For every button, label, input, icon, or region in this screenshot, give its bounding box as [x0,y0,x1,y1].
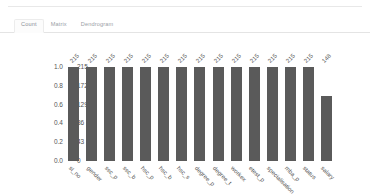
missing-values-panel: CountMatrixDendrogram 1.00.80.60.40.20.0… [0,0,370,194]
plot-area: 1.00.80.60.40.20.0 21517212986430 215sl_… [68,67,332,161]
bar-column: 215specialisation [267,67,278,161]
bar-column: 215ssc_p [104,67,115,161]
bar-value-label: 215 [86,53,97,64]
x-axis-tick-label: ssc_b [121,165,136,180]
bar [140,67,151,161]
x-axis-tick-label: mba_p [284,165,301,182]
bar-value-label: 215 [249,53,260,64]
x-axis-tick-label: sl_no [67,165,81,179]
bar-value-label: 148 [321,53,332,64]
bar-column: 215degree_t [213,67,224,161]
bar [213,67,224,161]
bar-value-label: 215 [195,53,206,64]
bar-value-label: 215 [267,53,278,64]
bar-column: 215mba_p [285,67,296,161]
bar-column: 148salary [321,67,332,161]
bar-column: 215hsc_b [158,67,169,161]
x-axis-tick-label: hsc_p [140,165,156,181]
bar-column: 215degree_p [194,67,205,161]
bar-value-label: 215 [122,53,133,64]
x-axis-tick-label: salary [320,165,336,181]
x-axis-tick-label: hsc_s [176,165,191,180]
bar [122,67,133,161]
bar [285,67,296,161]
bar-column: 215gender [86,67,97,161]
bar [321,96,332,161]
bar-column: 215hsc_p [140,67,151,161]
tab-matrix[interactable]: Matrix [44,20,74,32]
bar-value-label: 215 [231,53,242,64]
chart-figure: 1.00.80.60.40.20.0 21517212986430 215sl_… [0,33,370,194]
y-axis-left-tick-label: 0.6 [54,101,63,108]
bar [176,67,187,161]
bar-value-label: 215 [285,53,296,64]
y-axis-left-tick-label: 0.2 [54,139,63,146]
bar [303,67,314,161]
bar-column: 215sl_no [68,67,79,161]
bar-column: 215etest_p [249,67,260,161]
x-axis-tick-label: hsc_b [158,165,174,181]
y-axis-left-tick-label: 0.4 [54,120,63,127]
bar [104,67,115,161]
bar-column: 215ssc_b [122,67,133,161]
x-axis-tick-label: workex [230,165,248,183]
bar-column: 215hsc_s [176,67,187,161]
x-axis-tick-label: gender [85,165,102,182]
y-axis-left-tick-label: 0.8 [54,83,63,90]
bar-value-label: 215 [159,53,170,64]
bar [194,67,205,161]
tab-count[interactable]: Count [14,19,44,33]
bar [86,67,97,161]
bar-value-label: 215 [303,53,314,64]
y-axis-left-tick-label: 1.0 [54,64,63,71]
chart-tab-bar: CountMatrixDendrogram [0,16,370,33]
x-axis-tick-label: status [302,165,318,181]
bar [231,67,242,161]
x-axis-tick-label: ssc_p [103,165,118,180]
bar-value-label: 215 [104,53,115,64]
bar [68,67,79,161]
bar-series: 215sl_no215gender215ssc_p215ssc_b215hsc_… [68,67,332,161]
x-axis-tick-label: etest_p [248,165,266,183]
bar-column: 215workex [231,67,242,161]
bar [158,67,169,161]
bar-column: 215status [303,67,314,161]
y-axis-left-tick-label: 0.0 [54,158,63,165]
tab-dendrogram[interactable]: Dendrogram [74,20,121,32]
bar [249,67,260,161]
panel-top-divider [8,6,362,7]
bar-value-label: 215 [213,53,224,64]
bar-value-label: 215 [141,53,152,64]
bar-value-label: 215 [177,53,188,64]
bar [267,67,278,161]
